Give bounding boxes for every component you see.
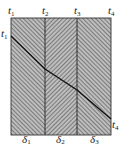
layer-2 — [45, 18, 77, 135]
label-t4-right: t4 — [112, 118, 119, 132]
layer-1 — [11, 18, 45, 135]
label-t1-top: t1 — [8, 4, 15, 18]
layer-3 — [77, 18, 111, 135]
label-t1-left: t1 — [1, 27, 8, 41]
composite-wall-diagram: t1 t2 t3 t4 t1 t4 δ1 δ2 δ3 — [0, 0, 122, 145]
label-t2-top: t2 — [42, 4, 49, 18]
label-t4-top: t4 — [108, 4, 115, 18]
label-t3-top: t3 — [74, 4, 81, 18]
